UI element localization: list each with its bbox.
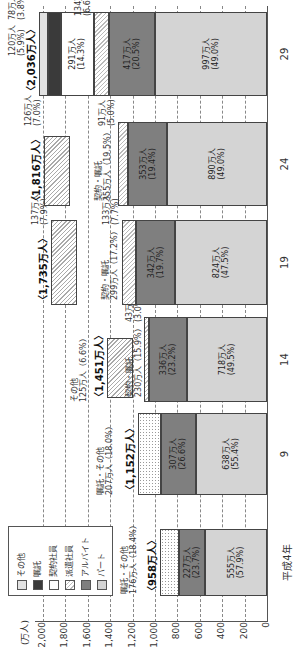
annotation-line: 134万人 xyxy=(74,0,83,16)
annotation-label: 134万人(6.6%) xyxy=(74,0,92,16)
annotation-line: (6.6%) xyxy=(83,0,92,16)
bar-segment xyxy=(144,317,149,402)
x-category-label: 29 xyxy=(279,24,290,84)
bar-total-label: 〈1,735万人〉 xyxy=(35,233,50,305)
segment-label-line: 718万人 xyxy=(218,317,227,402)
segment-label-line: (49.0%) xyxy=(211,12,220,96)
segment-label-line: (57.9%) xyxy=(236,529,245,596)
segment-label-line: 555万人 xyxy=(227,529,236,596)
y-tick-label: 600 xyxy=(194,622,204,652)
annotation-line: (5.9%) xyxy=(17,25,26,56)
segment-label: 336万人(23.2%) xyxy=(159,317,177,402)
y-tick-label: 0 xyxy=(261,622,271,652)
legend-item: パート xyxy=(95,553,107,590)
segment-label: 824万人(47.5%) xyxy=(212,220,230,305)
x-category-label: 平成4年 xyxy=(279,533,294,593)
x-category-label: 14 xyxy=(279,330,290,390)
offset-bar-segment xyxy=(44,136,70,206)
baseline-axis xyxy=(267,6,268,622)
legend-item: アルバイト xyxy=(79,537,91,590)
x-category-label: 24 xyxy=(279,134,290,194)
annotation-line: 207万人（18.0%） xyxy=(105,422,114,495)
annotation-line: 125万人（6.6%） xyxy=(79,334,88,402)
annotation-line: 91万人 xyxy=(98,99,107,126)
annotation-line: 120万人 xyxy=(8,25,17,56)
y-axis-unit: (万人) xyxy=(18,620,31,652)
legend-label: その他 xyxy=(17,553,26,577)
annotation-line: 299万人（17.2%） xyxy=(110,227,119,300)
annotation-line: 230万人（15.9%） xyxy=(134,324,143,397)
chart-frame: 02004006008001,0001,2001,4001,6001,8002,… xyxy=(0,0,295,652)
annotation-line: 契約・嘱託 xyxy=(94,128,103,201)
legend-item: その他 xyxy=(15,553,27,590)
segment-label-line: (23.2%) xyxy=(168,317,177,402)
segment-label: 997万人(49.0%) xyxy=(202,12,220,96)
annotation-label: 嘱託・その他176万人（18.4%） xyxy=(120,521,138,594)
bar-total-label: 〈958万人〉 xyxy=(144,535,159,596)
annotation-line: その他 xyxy=(70,334,79,402)
segment-label: 417万人(20.5%) xyxy=(123,12,141,96)
annotation-line: 嘱託・その他 xyxy=(96,422,105,495)
segment-label-line: 417万人 xyxy=(123,12,132,96)
segment-label: 353万人(19.4%) xyxy=(139,122,157,206)
annotation-label: 91万人(5.0%) xyxy=(98,99,116,126)
segment-label: 718万人(49.5%) xyxy=(218,317,236,402)
segment-label-line: (49.5%) xyxy=(227,317,236,402)
legend-swatch xyxy=(97,580,107,590)
bar-total-label: 〈1,816万人〉 xyxy=(28,134,43,206)
segment-label: 291万人(14.3%) xyxy=(68,12,86,96)
legend-item: 派遣社員 xyxy=(63,545,75,590)
bar-segment xyxy=(48,12,61,96)
segment-label-line: 307万人 xyxy=(169,413,178,495)
segment-label-line: (47.5%) xyxy=(221,220,230,305)
bar-segment xyxy=(138,413,161,495)
segment-label: 342万人(19.7%) xyxy=(147,220,165,305)
segment-label-line: 638万人 xyxy=(222,413,231,495)
legend-swatch xyxy=(17,580,27,590)
bar-segment xyxy=(122,220,137,305)
legend-label: 嘱託 xyxy=(33,561,42,577)
annotation-line: 嘱託・その他 xyxy=(120,521,129,594)
segment-label-line: (19.7%) xyxy=(156,220,165,305)
y-tick-label: 200 xyxy=(239,622,249,652)
segment-label-line: (49.0%) xyxy=(217,122,226,206)
segment-label-line: 342万人 xyxy=(147,220,156,305)
segment-label-line: (23.7%) xyxy=(192,529,201,596)
segment-label-line: 890万人 xyxy=(208,122,217,206)
annotation-label: 120万人(5.9%) xyxy=(8,25,26,56)
y-tick-label: 400 xyxy=(216,622,226,652)
segment-label-line: 824万人 xyxy=(212,220,221,305)
legend-swatch xyxy=(33,580,43,590)
value-axis xyxy=(35,621,267,622)
annotation-line: (3.8%) xyxy=(17,0,26,20)
y-tick-label: 1,800 xyxy=(59,622,69,652)
segment-label: 638万人(55.4%) xyxy=(222,413,240,495)
legend-swatch xyxy=(65,580,75,590)
segment-label: 555万人(57.9%) xyxy=(227,529,245,596)
legend-swatch xyxy=(49,580,59,590)
y-tick-label: 1,600 xyxy=(82,622,92,652)
annotation-line: 契約・嘱託 xyxy=(125,324,134,397)
annotation-line: 78万人 xyxy=(8,0,17,20)
annotation-label: 嘱託・その他207万人（18.0%） xyxy=(96,422,114,495)
segment-label-line: (26.6%) xyxy=(178,413,187,495)
segment-label-line: (20.5%) xyxy=(132,12,141,96)
y-tick-label: 800 xyxy=(171,622,181,652)
segment-label-line: (19.4%) xyxy=(148,122,157,206)
y-tick-label: 1,200 xyxy=(127,622,137,652)
annotation-line: 契約・嘱託 xyxy=(101,227,110,300)
offset-bar-segment xyxy=(51,220,77,305)
bar-segment xyxy=(94,12,109,96)
segment-label-line: 336万人 xyxy=(159,317,168,402)
x-category-label: 19 xyxy=(279,233,290,293)
legend-label: 契約社員 xyxy=(49,545,58,577)
annotation-label: 契約・嘱託230万人（15.9%） xyxy=(125,324,143,397)
segment-label-line: 227万人 xyxy=(183,529,192,596)
segment-label-line: 997万人 xyxy=(202,12,211,96)
bar-segment xyxy=(39,12,48,96)
segment-label: 227万人(23.7%) xyxy=(183,529,201,596)
x-category-label: 9 xyxy=(279,424,290,484)
y-tick-label: 1,000 xyxy=(149,622,159,652)
y-tick-label: 1,400 xyxy=(104,622,114,652)
segment-label: 307万人(26.6%) xyxy=(169,413,187,495)
